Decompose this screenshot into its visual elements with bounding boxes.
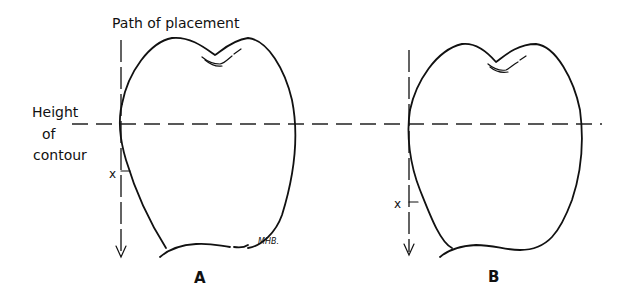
tooth-outline-b [410,44,582,250]
tooth-outline-b-left [408,110,452,248]
dental-diagram: x MHB. A x B Path of placement Height of… [0,0,625,293]
path-of-placement-label: Path of placement [112,15,240,31]
cervical-line-a [160,244,230,257]
figure-label-a: A [194,269,206,287]
figure-label-b: B [488,268,499,286]
fossa-b-dash [520,56,526,60]
tooth-outline-a-left [120,104,166,248]
fossa-a-dash [234,49,241,54]
artist-signature: MHB. [258,237,279,246]
contour-label: contour [33,147,87,163]
figure-b: x B [394,44,582,286]
figure-a: x MHB. A [109,38,295,287]
undercut-label-b: x [394,197,401,211]
cervical-line-b [440,245,520,257]
fossa-a-upper [202,56,232,64]
undercut-label-a: x [109,167,116,181]
of-label: of [42,126,57,142]
cervical-line-a-end [234,245,248,247]
height-label: Height [32,104,79,120]
